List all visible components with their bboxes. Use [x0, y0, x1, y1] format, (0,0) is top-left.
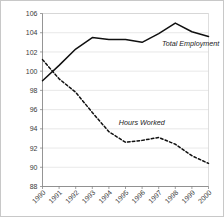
x-tick-label: 1997	[147, 189, 163, 205]
x-tick-label: 2000	[197, 189, 213, 205]
chart-figure: 889092949698100102104106 199019911992199…	[0, 0, 224, 217]
series-label-total-employment: Total Employment	[162, 39, 220, 48]
x-tick-label: 1998	[164, 189, 180, 205]
y-axis-ticks: 889092949698100102104106	[26, 10, 43, 190]
x-tick-label: 1995	[114, 189, 130, 205]
y-tick-label: 96	[30, 106, 38, 113]
x-tick-label: 1996	[130, 189, 146, 205]
line-chart: 889092949698100102104106 199019911992199…	[1, 1, 224, 217]
y-tick-label: 94	[30, 125, 38, 132]
y-tick-label: 90	[30, 164, 38, 171]
y-tick-label: 92	[30, 145, 38, 152]
x-tick-label: 1994	[97, 189, 113, 205]
y-tick-label: 88	[30, 183, 38, 190]
y-tick-label: 100	[26, 68, 38, 75]
y-tick-label: 102	[26, 49, 38, 56]
y-tick-label: 98	[30, 87, 38, 94]
x-tick-label: 1999	[180, 189, 196, 205]
x-tick-label: 1991	[47, 189, 63, 205]
x-tick-label: 1992	[64, 189, 80, 205]
y-tick-label: 104	[26, 29, 38, 36]
y-tick-label: 106	[26, 10, 38, 17]
x-axis-ticks: 1990199119921993199419951996199719981999…	[31, 187, 213, 205]
series-annotations: Total EmploymentHours Worked	[119, 39, 220, 127]
series-label-hours-worked: Hours Worked	[119, 118, 166, 127]
x-tick-label: 1993	[81, 189, 97, 205]
x-tick-label: 1990	[31, 189, 47, 205]
